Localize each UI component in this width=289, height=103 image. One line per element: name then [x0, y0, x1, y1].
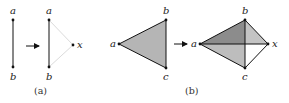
vertex-b — [48, 66, 51, 69]
panel-a-after: a b x — [46, 5, 83, 82]
faint-edge-ax — [49, 20, 73, 45]
vertex-a — [199, 43, 202, 46]
vertex-x — [267, 43, 270, 46]
label-x: x — [77, 39, 83, 50]
label-x: x — [272, 38, 278, 49]
vertex-a — [12, 19, 15, 22]
label-b: b — [46, 71, 52, 82]
vertex-b — [165, 19, 168, 22]
caption-b: (b) — [185, 85, 199, 96]
label-a: a — [46, 5, 52, 16]
face-abc — [119, 20, 166, 68]
vertex-b — [12, 66, 15, 69]
vertex-c — [165, 67, 168, 70]
label-c: c — [163, 71, 169, 82]
figure-canvas: a b a b x (a) a b c — [0, 0, 289, 103]
label-a: a — [10, 5, 16, 16]
label-b: b — [163, 5, 169, 16]
panel-b-after: a b c x — [191, 5, 278, 82]
vertex-b — [244, 19, 247, 22]
label-b: b — [242, 5, 248, 16]
faint-edge-bx — [49, 45, 73, 67]
panel-a-before: a b — [10, 5, 16, 82]
caption-a: (a) — [34, 85, 47, 96]
vertex-x — [72, 44, 75, 47]
vertex-c — [244, 67, 247, 70]
label-a: a — [110, 38, 116, 49]
label-c: c — [242, 71, 248, 82]
vertex-a — [48, 19, 51, 22]
panel-b-before: a b c — [110, 5, 169, 82]
vertex-a — [118, 43, 121, 46]
label-b: b — [10, 71, 16, 82]
label-a: a — [191, 38, 197, 49]
